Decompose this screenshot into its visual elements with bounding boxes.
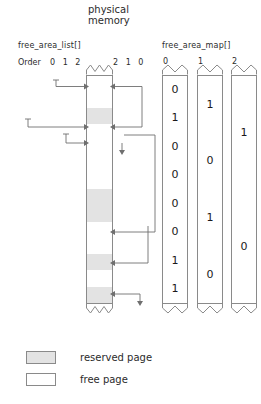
order0-left-wire	[56, 80, 84, 87]
right-chain-g	[115, 294, 140, 301]
legend-swatch-reserved	[26, 351, 56, 364]
legend-label: free page	[80, 374, 128, 385]
right-chain-d	[115, 250, 152, 263]
left-arrowheads	[84, 84, 89, 147]
wire-origin-ticks	[25, 80, 69, 134]
right-arrowheads	[110, 84, 115, 298]
right-chain-c	[115, 135, 155, 232]
order0-arrowhead	[84, 84, 89, 90]
order1-left-wire	[28, 119, 84, 127]
legend-label: reserved page	[80, 352, 152, 363]
right-chain-a	[115, 87, 142, 128]
right-arrowhead-row11	[110, 260, 115, 266]
right-arrowhead-row5	[110, 124, 115, 130]
order2-arrowhead	[84, 140, 89, 146]
null-terminators	[119, 150, 143, 306]
null-term-b	[137, 301, 143, 306]
legend-swatch-free	[26, 373, 56, 386]
right-chain-b	[115, 127, 160, 232]
right-arrowhead-row9	[110, 229, 115, 235]
legend-row: free page	[26, 370, 226, 388]
order2-left-wire	[66, 134, 84, 143]
null-term-a	[119, 150, 125, 155]
right-arrowhead-row13	[110, 291, 115, 297]
order1-arrowhead	[84, 124, 89, 130]
pointer-wires	[0, 0, 261, 404]
legend: reserved pagefree page	[26, 348, 226, 392]
right-arrowhead-row0	[110, 84, 115, 90]
legend-row: reserved page	[26, 348, 226, 366]
